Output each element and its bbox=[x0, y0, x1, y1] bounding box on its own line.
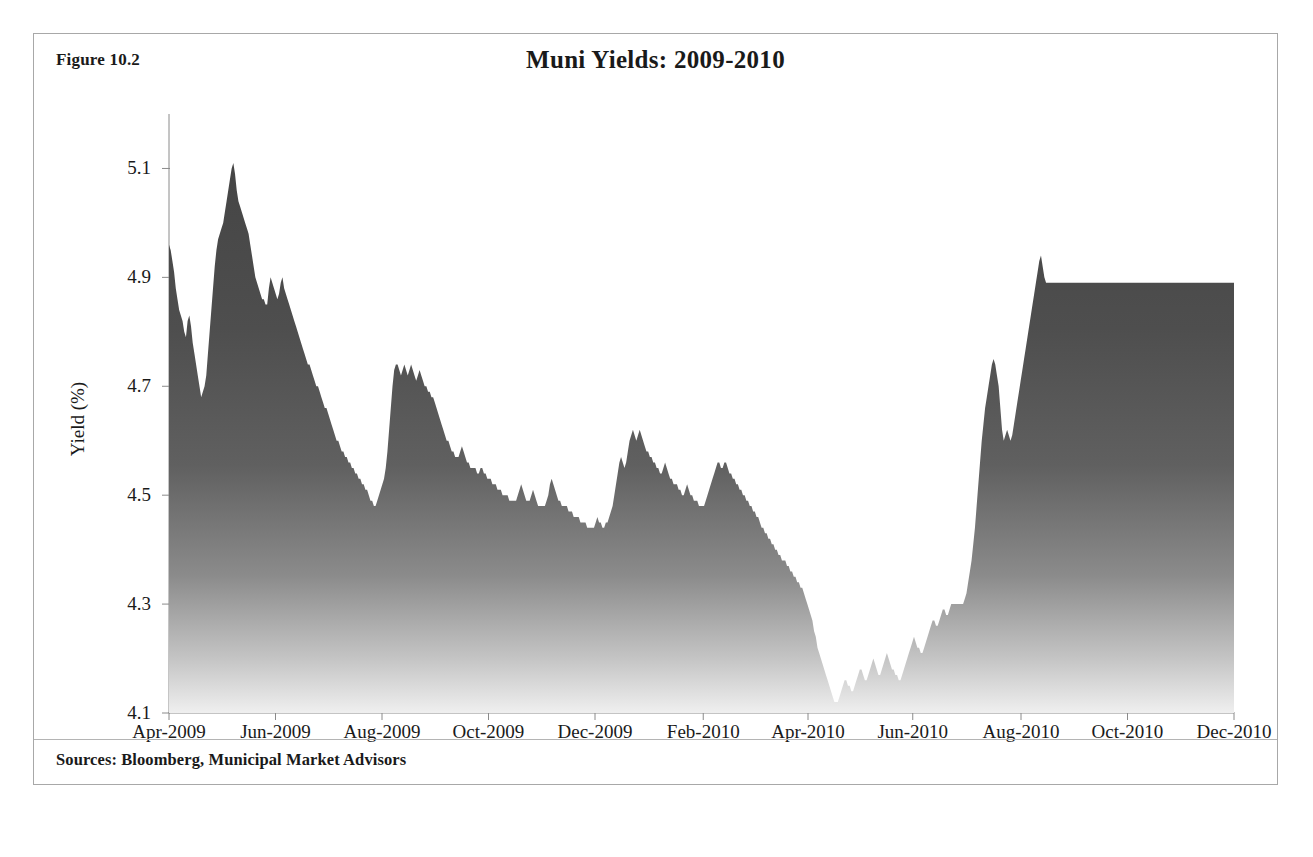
figure-frame: Figure 10.2 Muni Yields: 2009-2010 Yield… bbox=[33, 33, 1278, 785]
y-tick-label: 4.3 bbox=[91, 594, 151, 613]
plot-area: Yield (%) 4.14.34.54.74.95.1 Apr-200 bbox=[34, 34, 1279, 786]
y-tick-label: 4.5 bbox=[91, 485, 151, 504]
y-tick-label: 5.1 bbox=[91, 158, 151, 177]
sources-divider bbox=[34, 739, 1277, 740]
y-tick-label: 4.1 bbox=[91, 703, 151, 722]
yield-area-chart bbox=[34, 34, 1279, 786]
sources-note: Sources: Bloomberg, Municipal Market Adv… bbox=[56, 750, 406, 770]
yield-area-series bbox=[169, 163, 1234, 713]
y-tick-label: 4.9 bbox=[91, 267, 151, 286]
y-tick-label: 4.7 bbox=[91, 376, 151, 395]
